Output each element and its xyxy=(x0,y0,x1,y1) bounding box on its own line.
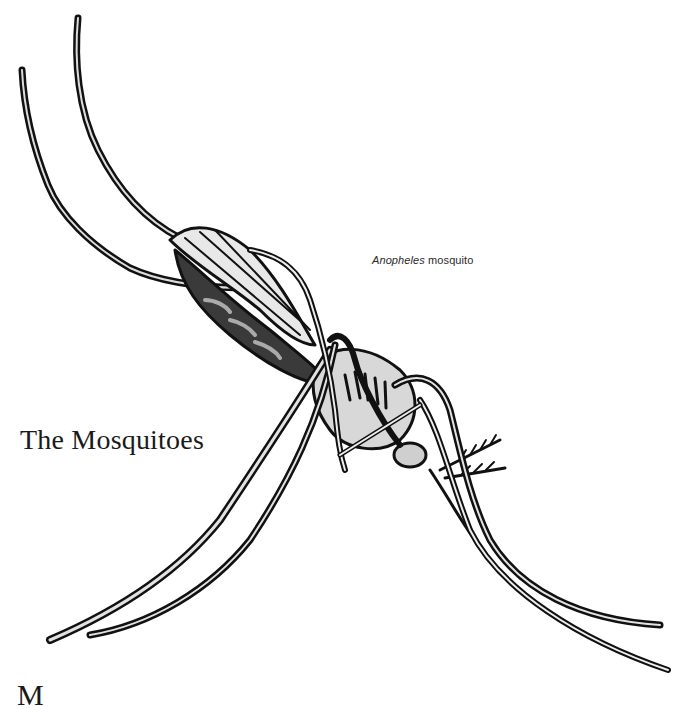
body-text-start: M xyxy=(17,680,44,709)
front-leg-right xyxy=(77,18,180,238)
section-heading: The Mosquitoes xyxy=(20,424,204,456)
figure-caption: Anopheles mosquito xyxy=(372,254,473,266)
front-leg-right-a xyxy=(395,378,660,625)
caption-genus: Anopheles xyxy=(372,254,425,266)
hind-leg-left-inner xyxy=(90,345,335,635)
caption-rest: mosquito xyxy=(425,254,474,266)
